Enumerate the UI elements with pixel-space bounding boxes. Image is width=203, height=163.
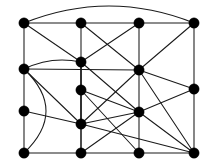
graph-edge (24, 69, 81, 124)
graph-edge (139, 89, 194, 112)
graph-vertex[interactable] (189, 18, 199, 28)
graph-edge (139, 112, 194, 153)
graph-edge-curved (24, 6, 194, 23)
graph-edge (81, 90, 139, 112)
graph-vertex[interactable] (76, 119, 86, 129)
graph-vertex[interactable] (76, 57, 86, 67)
graph-edge (139, 23, 194, 70)
graph-vertex[interactable] (19, 148, 29, 158)
graph-vertex[interactable] (134, 18, 144, 28)
graph-edge-curved (24, 60, 81, 69)
graph-vertex[interactable] (76, 85, 86, 95)
graph-vertex[interactable] (76, 18, 86, 28)
graph-vertex[interactable] (189, 84, 199, 94)
graph-edge (139, 70, 194, 89)
graph-vertex[interactable] (19, 106, 29, 116)
graph-edge (24, 111, 81, 124)
graph-figure (0, 0, 203, 163)
graph-vertex[interactable] (19, 18, 29, 28)
graph-vertex[interactable] (134, 65, 144, 75)
graph-vertex[interactable] (134, 148, 144, 158)
graph-edge (81, 23, 139, 62)
graph-edge (81, 90, 139, 153)
edge-layer (24, 6, 194, 153)
graph-vertex[interactable] (189, 148, 199, 158)
graph-vertex[interactable] (19, 64, 29, 74)
graph-edge (24, 23, 81, 62)
graph-vertex[interactable] (76, 148, 86, 158)
graph-vertex[interactable] (134, 107, 144, 117)
graph-edge (81, 23, 139, 70)
graph-edge (81, 70, 139, 124)
graph-canvas (0, 0, 203, 163)
